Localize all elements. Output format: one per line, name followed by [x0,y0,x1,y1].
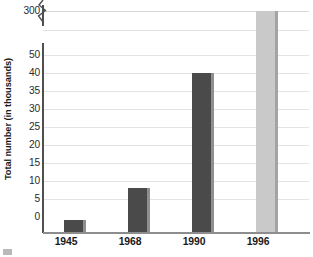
bar-1996-highlight [275,11,278,232]
x-tick-1996: 1996 [237,236,279,247]
bar-1996-face [256,11,275,232]
y-tick-25: 25 [14,122,40,132]
bar-1968 [128,188,150,232]
x-axis-line [43,232,310,234]
y-tick-40: 40 [14,68,40,78]
bar-1990-highlight [211,73,214,232]
bar-1945 [64,220,86,232]
y-axis-tick-labels: 300 50 40 35 30 25 20 15 10 5 0 [14,0,40,257]
y-tick-30: 30 [14,104,40,114]
bar-chart: Total number (in thousands) 300 50 40 35… [0,0,313,257]
bar-1945-face [64,220,83,232]
plot-area [43,5,309,232]
y-tick-15: 15 [14,158,40,168]
x-tick-1945: 1945 [45,236,87,247]
bar-1996 [256,11,278,232]
y-axis-line-lower [42,43,44,233]
x-tick-1990: 1990 [173,236,215,247]
y-tick-20: 20 [14,140,40,150]
bar-1990 [192,73,214,232]
y-tick-5: 5 [14,194,40,204]
scan-artifact [3,249,12,255]
bar-1968-face [128,188,147,232]
y-tick-35: 35 [14,86,40,96]
bar-1945-highlight [83,220,86,232]
x-tick-1968: 1968 [109,236,151,247]
y-tick-10: 10 [14,176,40,186]
bar-1968-highlight [147,188,150,232]
bar-1990-face [192,73,211,232]
y-axis-title-label: Total number (in thousands) [3,57,13,179]
y-tick-0: 0 [14,212,40,222]
y-tick-50: 50 [14,50,40,60]
axis-break-icon [36,0,52,22]
